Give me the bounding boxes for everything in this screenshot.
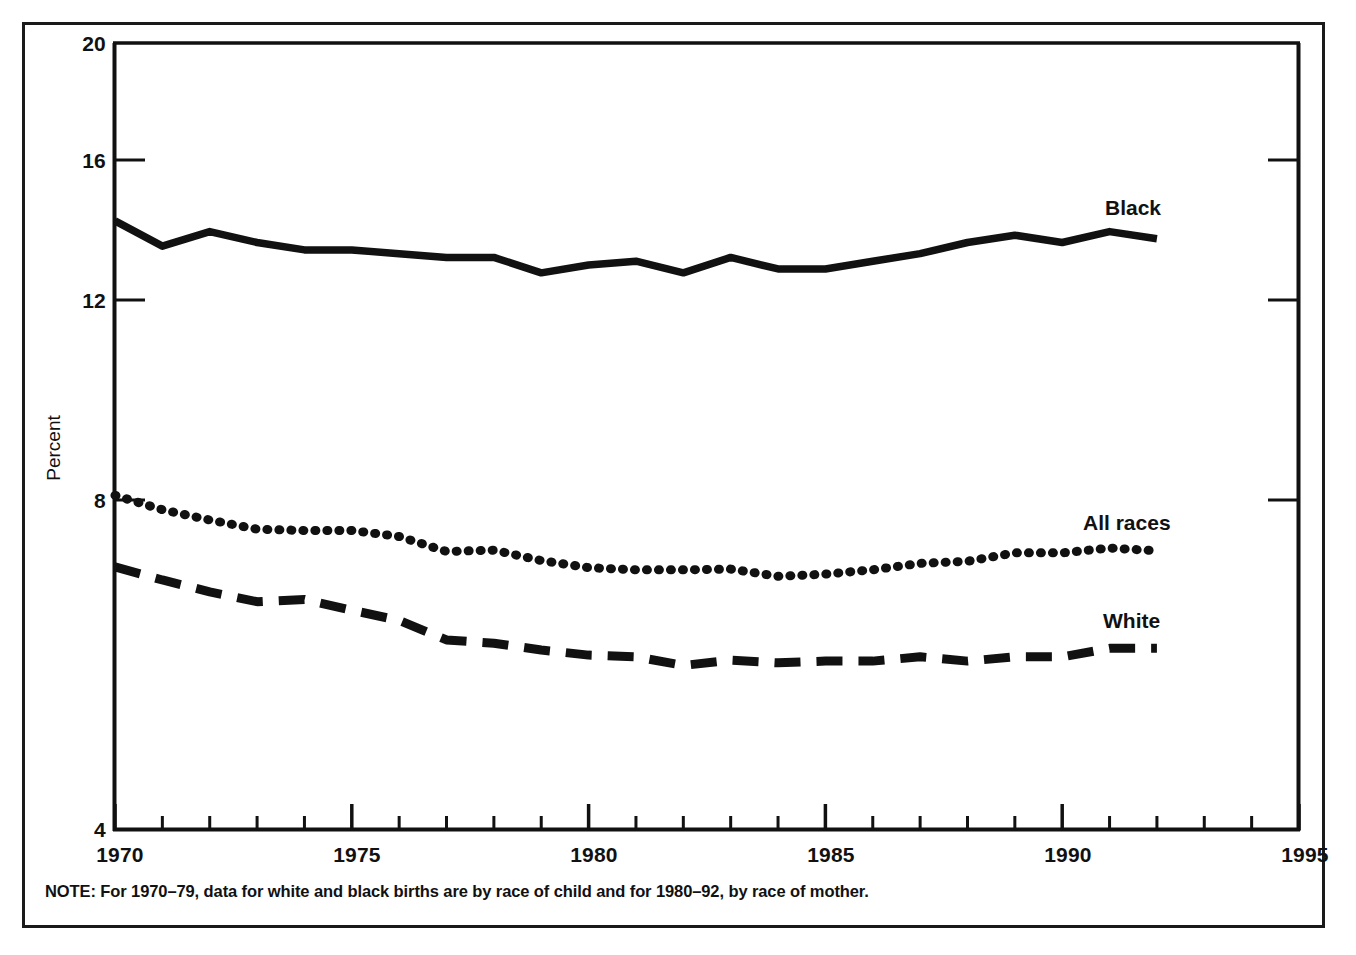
x-axis-ticks xyxy=(115,804,1299,830)
figure-container: 20 16 12 8 4 Percent 1970 1975 1980 1985… xyxy=(0,0,1356,955)
series-line-black xyxy=(115,221,1157,273)
chart-plot-area xyxy=(0,0,1356,955)
axis-lines xyxy=(113,43,1300,831)
series-line-all-races xyxy=(115,495,1157,576)
series-layer xyxy=(115,221,1157,666)
y-axis-ticks xyxy=(114,160,1299,500)
series-line-white xyxy=(115,567,1157,666)
